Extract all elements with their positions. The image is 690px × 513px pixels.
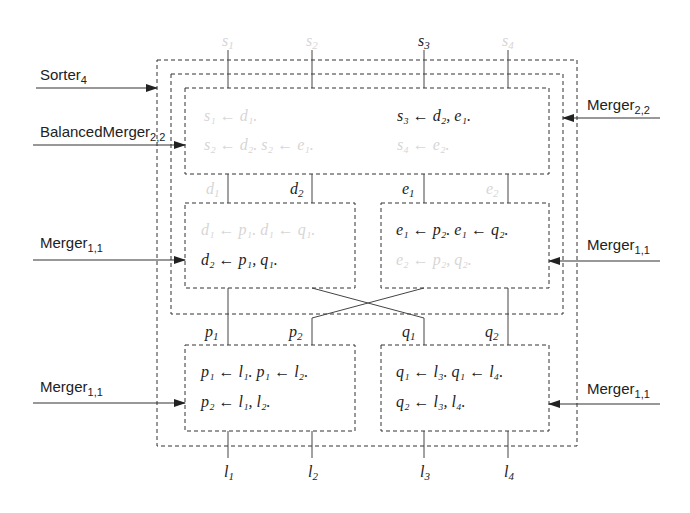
top-merger-box	[185, 88, 549, 174]
rule-bottom-right-1: q₁ ← l₃. q₁ ← l₄.	[396, 363, 503, 381]
bottom-right-merger-label: Merger1,1	[549, 380, 660, 404]
rule-top-right-2: s₄ ← e₂.	[397, 136, 449, 153]
mid-left-merger-label: Merger1,1	[33, 234, 185, 260]
balanced-merger-label: BalancedMerger2,2	[33, 123, 185, 145]
top-output-wires	[228, 50, 508, 88]
svg-text:Merger1,1: Merger1,1	[40, 378, 103, 398]
rule-mid-right-2: e₂ ← p₂, q₂.	[396, 251, 472, 269]
label-l4: l4	[504, 463, 514, 482]
low-wires-p-q	[228, 288, 508, 345]
rule-mid-left-2: d₂ ← p₁, q₁.	[201, 251, 278, 269]
bottom-left-merger-box	[185, 345, 355, 431]
svg-text:Merger1,1: Merger1,1	[587, 236, 650, 256]
mid-wires-d-e	[228, 174, 508, 203]
rule-bottom-left-2: p₂ ← l₁, l₂.	[200, 393, 271, 411]
mid-right-merger-box	[381, 203, 549, 288]
label-e2: e2	[486, 180, 499, 199]
bottom-right-merger-box	[381, 345, 549, 431]
top-merger-label: Merger2,2	[563, 96, 660, 118]
label-s3: s3	[418, 32, 430, 51]
mid-right-merger-label: Merger1,1	[549, 236, 660, 261]
bottom-left-merger-label: Merger1,1	[33, 378, 185, 403]
label-q2: q2	[485, 323, 499, 342]
rule-mid-left-1: d₁ ← p₁. d₁ ← q₁.	[201, 221, 315, 239]
label-s2: s2	[306, 32, 318, 51]
rule-bottom-left-1: p₁ ← l₁. p₁ ← l₂.	[200, 363, 308, 381]
rule-bottom-right-2: q₂ ← l₃, l₄.	[396, 393, 466, 411]
label-l3: l3	[420, 463, 430, 482]
sorter-diagram: s1 s2 s3 s4 d1 d2 e1 e2 p1 p2 q1 q2 l1 l…	[0, 0, 690, 513]
label-p2: p2	[288, 323, 303, 342]
sorter-label: Sorter4	[36, 66, 157, 88]
svg-text:BalancedMerger2,2: BalancedMerger2,2	[40, 123, 165, 143]
rule-top-right-1: s₃ ← d₂, e₁.	[397, 107, 471, 124]
bottom-input-wires	[228, 431, 508, 458]
svg-text:Merger2,2: Merger2,2	[587, 96, 650, 116]
label-e1: e1	[402, 180, 415, 199]
label-l2: l2	[308, 463, 318, 482]
label-q1: q1	[402, 323, 416, 342]
rule-mid-right-1: e₁ ← p₂. e₁ ← q₂.	[396, 221, 508, 239]
label-d1: d1	[206, 180, 220, 199]
label-d2: d2	[290, 180, 304, 199]
mid-left-merger-box	[185, 203, 355, 288]
svg-text:Sorter4: Sorter4	[40, 66, 87, 86]
rule-top-left-2: s₂ ← d₂. s₂ ← e₁.	[204, 136, 314, 153]
rule-top-left-1: s₁ ← d₁.	[204, 107, 257, 124]
svg-text:Merger1,1: Merger1,1	[587, 380, 650, 400]
label-l1: l1	[224, 463, 234, 482]
label-s1: s1	[222, 32, 234, 51]
label-s4: s4	[502, 32, 514, 51]
label-p1: p1	[204, 323, 219, 342]
svg-text:Merger1,1: Merger1,1	[40, 234, 103, 254]
